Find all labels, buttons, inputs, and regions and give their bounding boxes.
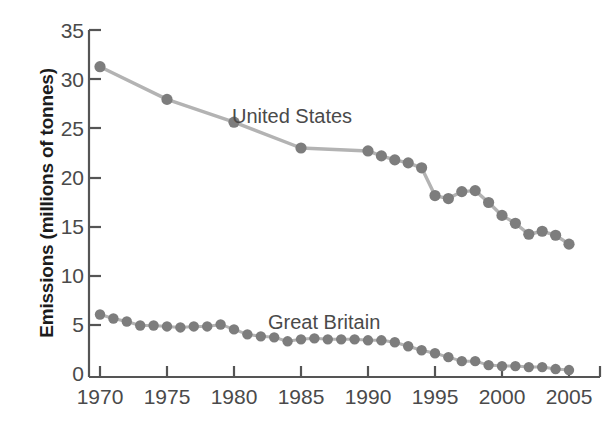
great-britain-point	[309, 333, 319, 343]
united-states-point	[537, 226, 548, 237]
great-britain-point	[483, 360, 493, 370]
united-states-point	[362, 145, 373, 156]
great-britain-point	[175, 322, 185, 332]
united-states-point	[510, 218, 521, 229]
great-britain-point	[215, 319, 225, 329]
series-label-united-states: United States	[232, 106, 352, 126]
united-states-point	[550, 230, 561, 241]
great-britain-point	[390, 337, 400, 347]
y-axis-ticks	[89, 30, 101, 325]
great-britain-point	[296, 334, 306, 344]
great-britain-point	[497, 361, 507, 371]
united-states-point	[416, 162, 427, 173]
united-states-point	[295, 142, 306, 153]
great-britain-point	[95, 309, 105, 319]
united-states-point	[403, 157, 414, 168]
plot-area	[0, 0, 615, 443]
great-britain-point	[470, 356, 480, 366]
great-britain-point	[108, 313, 118, 323]
united-states-point	[563, 239, 574, 250]
united-states-point	[429, 190, 440, 201]
great-britain-point	[256, 331, 266, 341]
great-britain-point	[403, 341, 413, 351]
great-britain-point	[162, 321, 172, 331]
great-britain-point	[122, 316, 132, 326]
great-britain-point	[443, 352, 453, 362]
united-states-point	[389, 154, 400, 165]
great-britain-point	[189, 321, 199, 331]
great-britain-point	[269, 332, 279, 342]
united-states-point	[470, 185, 481, 196]
united-states-point	[376, 150, 387, 161]
great-britain-point	[202, 321, 212, 331]
great-britain-point	[524, 362, 534, 372]
united-states-point	[94, 61, 105, 72]
great-britain-point	[564, 365, 574, 375]
united-states-point	[523, 229, 534, 240]
great-britain-point	[550, 364, 560, 374]
great-britain-point	[457, 356, 467, 366]
great-britain-point	[363, 335, 373, 345]
emissions-line-chart: Emissions (millions of tonnes) 35 30 25 …	[0, 0, 615, 443]
great-britain-point	[349, 334, 359, 344]
great-britain-point	[336, 334, 346, 344]
united-states-markers	[94, 61, 574, 250]
series-label-great-britain: Great Britain	[268, 312, 380, 332]
united-states-point	[483, 197, 494, 208]
great-britain-point	[376, 335, 386, 345]
great-britain-point	[242, 329, 252, 339]
united-states-point	[161, 94, 172, 105]
united-states-point	[456, 186, 467, 197]
great-britain-point	[135, 320, 145, 330]
great-britain-point	[510, 361, 520, 371]
united-states-point	[496, 210, 507, 221]
united-states-point	[443, 193, 454, 204]
great-britain-point	[282, 336, 292, 346]
great-britain-point	[323, 334, 333, 344]
series-united-states	[94, 61, 574, 250]
great-britain-point	[416, 345, 426, 355]
great-britain-point	[148, 320, 158, 330]
great-britain-point	[430, 348, 440, 358]
great-britain-point	[537, 362, 547, 372]
great-britain-point	[229, 324, 239, 334]
